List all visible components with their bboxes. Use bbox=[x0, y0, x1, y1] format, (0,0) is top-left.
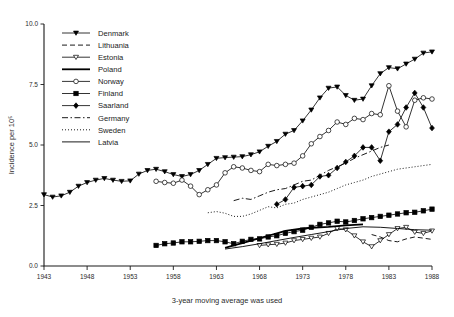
data-point-marker bbox=[257, 169, 262, 174]
data-point-marker bbox=[50, 195, 55, 199]
data-point-marker bbox=[283, 231, 287, 235]
data-point-marker bbox=[85, 181, 90, 185]
x-tick-label: 1943 bbox=[37, 273, 52, 280]
legend-label: Germany bbox=[98, 114, 129, 123]
legend-item-germany: Germany bbox=[62, 114, 129, 123]
x-tick-label: 1983 bbox=[382, 273, 397, 280]
y-tick-label: 10.0 bbox=[25, 20, 38, 27]
series-line bbox=[277, 93, 432, 204]
data-point-marker bbox=[395, 109, 400, 114]
x-tick-label: 1968 bbox=[252, 273, 267, 280]
data-point-marker bbox=[378, 112, 383, 117]
data-point-marker bbox=[145, 169, 150, 173]
x-tick-label: 1948 bbox=[80, 273, 95, 280]
data-point-marker bbox=[326, 128, 331, 133]
data-point-marker bbox=[369, 245, 374, 249]
data-point-marker bbox=[188, 184, 193, 189]
x-tick-label: 1953 bbox=[123, 273, 138, 280]
data-point-marker bbox=[206, 187, 211, 192]
x-tick-label: 1963 bbox=[209, 273, 224, 280]
data-point-marker bbox=[300, 154, 305, 159]
data-point-marker bbox=[395, 212, 399, 216]
incidence-line-chart: 0.02.55.07.510.0194319481953195819631968… bbox=[0, 0, 454, 317]
data-point-marker bbox=[395, 122, 400, 128]
data-point-marker bbox=[197, 192, 202, 197]
data-point-marker bbox=[223, 171, 228, 176]
data-point-marker bbox=[404, 211, 408, 215]
data-point-marker bbox=[231, 164, 236, 169]
y-axis-title: Incidence per 10⁵ bbox=[7, 116, 16, 175]
data-point-marker bbox=[318, 222, 322, 226]
data-point-marker bbox=[335, 120, 340, 125]
data-point-marker bbox=[387, 83, 392, 88]
data-point-marker bbox=[412, 90, 417, 96]
data-point-marker bbox=[214, 183, 219, 188]
data-point-marker bbox=[163, 242, 167, 246]
data-point-marker bbox=[275, 234, 279, 238]
data-point-marker bbox=[369, 111, 374, 116]
data-point-marker bbox=[300, 228, 304, 232]
data-point-marker bbox=[274, 201, 279, 207]
data-point-marker bbox=[74, 91, 78, 95]
data-point-marker bbox=[361, 117, 366, 122]
x-tick-label: 1988 bbox=[425, 273, 440, 280]
legend-item-lithuania: Lithuania bbox=[62, 41, 130, 50]
data-point-marker bbox=[413, 210, 417, 214]
data-point-marker bbox=[309, 225, 313, 229]
data-point-marker bbox=[387, 213, 391, 217]
series-norway bbox=[154, 83, 435, 197]
data-point-marker bbox=[274, 139, 279, 143]
legend-label: Norway bbox=[98, 77, 124, 86]
legend-item-latvia: Latvia bbox=[62, 138, 119, 147]
data-point-marker bbox=[180, 178, 185, 183]
data-point-marker bbox=[171, 241, 175, 245]
data-point-marker bbox=[240, 166, 245, 171]
series-latvia bbox=[225, 227, 432, 249]
legend-label: Poland bbox=[98, 65, 122, 74]
data-point-marker bbox=[283, 162, 288, 167]
series-sweden bbox=[208, 164, 432, 216]
data-point-marker bbox=[275, 163, 280, 168]
data-point-marker bbox=[300, 183, 305, 189]
data-point-marker bbox=[240, 239, 244, 243]
legend-label: Sweden bbox=[98, 126, 125, 135]
y-tick-label: 0.0 bbox=[29, 262, 38, 269]
legend-label: Latvia bbox=[98, 138, 119, 147]
legend-label: Saarland bbox=[98, 101, 128, 110]
data-point-marker bbox=[292, 129, 297, 133]
data-point-marker bbox=[67, 190, 72, 194]
legend-item-estonia: Estonia bbox=[62, 53, 124, 62]
data-point-marker bbox=[266, 144, 271, 148]
data-point-marker bbox=[430, 97, 435, 102]
data-point-marker bbox=[154, 243, 158, 247]
data-point-marker bbox=[412, 98, 417, 103]
chart-container: 0.02.55.07.510.0194319481953195819631968… bbox=[0, 0, 454, 317]
data-point-marker bbox=[404, 125, 409, 130]
data-point-marker bbox=[378, 214, 382, 218]
x-tick-label: 1973 bbox=[295, 273, 310, 280]
series-line bbox=[208, 164, 432, 216]
data-point-marker bbox=[257, 237, 261, 241]
data-point-marker bbox=[378, 72, 383, 76]
data-point-marker bbox=[335, 219, 339, 223]
series-line bbox=[225, 224, 363, 247]
series-poland bbox=[225, 224, 363, 247]
data-point-marker bbox=[343, 93, 348, 97]
series-saarland bbox=[274, 90, 434, 207]
data-point-marker bbox=[369, 215, 373, 219]
data-point-marker bbox=[74, 103, 79, 109]
data-point-marker bbox=[326, 221, 330, 225]
series-germany bbox=[234, 145, 389, 201]
data-point-marker bbox=[188, 240, 192, 244]
data-point-marker bbox=[352, 218, 356, 222]
legend-label: Denmark bbox=[98, 29, 129, 38]
data-point-marker bbox=[197, 169, 202, 173]
legend-item-denmark: Denmark bbox=[62, 29, 129, 38]
legend-item-poland: Poland bbox=[62, 65, 122, 74]
series-line bbox=[225, 227, 432, 249]
data-point-marker bbox=[352, 98, 357, 102]
series-line bbox=[156, 86, 432, 195]
data-point-marker bbox=[344, 220, 348, 224]
data-point-marker bbox=[421, 209, 425, 213]
data-point-marker bbox=[266, 162, 271, 167]
